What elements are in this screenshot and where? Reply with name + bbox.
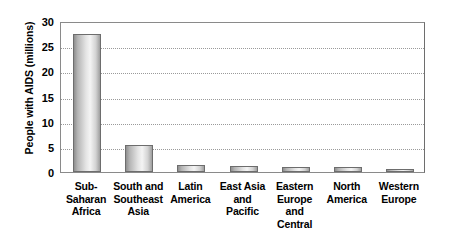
y-axis-tick-10: 10 [42, 117, 54, 128]
category-label-1: South andSoutheastAsia [112, 180, 164, 218]
category-label-line: South and [112, 180, 164, 193]
bar-0 [73, 34, 101, 172]
y-axis-tick-5: 5 [48, 142, 54, 153]
y-axis-tick-0: 0 [48, 168, 54, 179]
y-axis-tick-labels: 051015202530 [30, 22, 54, 173]
plot-area [60, 22, 425, 173]
category-label-line: America [321, 193, 373, 206]
category-label-0: Sub-SaharanAfrica [60, 180, 112, 218]
category-label-5: NorthAmerica [321, 180, 373, 205]
category-label-line: Southeast [112, 193, 164, 206]
category-label-line: Western [373, 180, 425, 193]
y-axis-tick-15: 15 [42, 92, 54, 103]
category-label-4: EasternEuropeandCentral Asia [269, 180, 321, 230]
category-label-line: Sub- [60, 180, 112, 193]
category-label-line: Europe [373, 193, 425, 206]
bar-6 [386, 169, 414, 172]
bar-chart: People with AIDS (millions) 051015202530… [0, 0, 450, 230]
category-label-6: WesternEurope [373, 180, 425, 205]
y-axis-tick-20: 20 [42, 67, 54, 78]
category-label-3: East AsiaandPacific [216, 180, 268, 218]
bar-3 [230, 166, 258, 172]
category-label-line: East Asia [216, 180, 268, 193]
category-label-line: Latin [164, 180, 216, 193]
category-label-line: and [216, 193, 268, 206]
x-axis-category-labels: Sub-SaharanAfricaSouth andSoutheastAsiaL… [60, 180, 425, 230]
category-label-2: LatinAmerica [164, 180, 216, 205]
category-label-line: Pacific [216, 205, 268, 218]
category-label-line: America [164, 193, 216, 206]
bar-5 [334, 167, 362, 172]
category-label-line: Saharan [60, 193, 112, 206]
y-axis-tick-25: 25 [42, 42, 54, 53]
bars-layer [61, 23, 424, 172]
category-label-line: Eastern [269, 180, 321, 193]
category-label-line: Asia [112, 205, 164, 218]
category-label-line: Europe [269, 193, 321, 206]
category-label-line: and [269, 205, 321, 218]
y-axis-tick-30: 30 [42, 17, 54, 28]
category-label-line: Central Asia [269, 218, 321, 231]
bar-1 [125, 145, 153, 172]
bar-2 [177, 165, 205, 172]
bar-4 [282, 167, 310, 172]
category-label-line: Africa [60, 205, 112, 218]
category-label-line: North [321, 180, 373, 193]
